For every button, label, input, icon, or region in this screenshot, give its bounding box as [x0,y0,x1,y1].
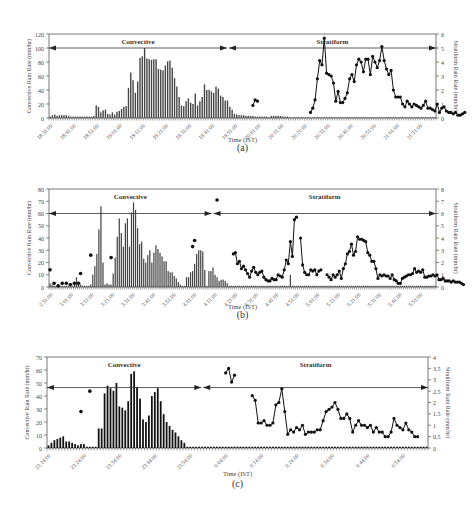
y-right-tick-label: 1.5 [433,411,441,417]
convective-bar [245,286,246,287]
y-right-tick-label: 0 [441,285,444,291]
y-right-axis-title: Stratiform Rain Rate (mm/hr) [452,202,459,273]
region-label-convective: Convective [121,38,154,46]
convective-bar [250,116,251,118]
convective-bar [54,115,55,119]
convective-bar [266,447,268,448]
convective-bar [235,286,236,287]
y-left-tick-label: 80 [38,60,44,66]
convective-bar [227,283,228,287]
convective-bar [411,447,413,448]
convective-bar [372,117,373,118]
convective-bar [399,447,401,448]
convective-bar [112,112,113,118]
convective-bar [53,286,54,287]
convective-bar [121,408,123,448]
stratiform-point [52,282,56,286]
convective-bar [349,286,350,287]
convective-bar [231,110,232,118]
convective-bar [190,272,191,287]
convective-bar [248,447,250,448]
convective-bar [398,286,399,287]
convective-bar [105,110,106,118]
convective-bar [370,117,371,118]
y-right-tick-label: 1 [433,423,436,429]
convective-bar [86,447,88,448]
stratiform-point [79,410,83,414]
convective-bar [52,115,53,118]
convective-bar [351,117,352,118]
x-tick-label: 3:21:00 [99,291,115,307]
convective-bar [56,439,58,448]
convective-bar [357,286,358,287]
convective-bar [77,117,78,118]
convective-bar [292,286,293,287]
x-tick-label: 0:24:00 [284,452,300,468]
x-tick-label: 3:31:00 [120,291,136,307]
convective-bar [396,447,398,448]
panel-label: (b) [237,309,249,321]
x-tick-label: 5:31:00 [366,291,382,307]
convective-bar [241,286,242,287]
convective-bar [240,447,242,448]
convective-bar [113,274,114,287]
convective-bar [361,286,362,287]
convective-bar [367,286,368,287]
convective-bar [334,447,336,448]
convective-bar [271,286,272,287]
convective-bar [316,447,318,448]
convective-bar [369,286,370,287]
convective-bar [71,443,73,448]
convective-bar [119,111,120,118]
convective-bar [180,285,181,287]
convective-bar [74,444,76,448]
convective-bar [162,70,163,118]
convective-bar [90,285,91,287]
convective-bar [296,117,297,118]
convective-bar [313,447,315,448]
convective-bar [183,443,185,448]
convective-bar [342,117,343,118]
convective-bar [243,115,244,118]
convective-bar [124,410,126,448]
convective-bar [310,117,311,118]
x-tick-label: 2:51:00 [38,291,54,307]
convective-bar [151,263,152,288]
convective-bar [341,286,342,287]
convective-bar [166,422,168,448]
stratiform-point [89,253,93,257]
convective-bar [320,286,321,287]
convective-bar [294,286,295,287]
y-left-axis-title: Convective Rain Rate (mm/hr) [24,365,31,439]
convective-bar [185,101,186,118]
y-right-axis-title: Stratiform Rain Rate (mm/hr) [452,40,459,111]
convective-bar [198,250,199,287]
convective-bar [213,93,214,118]
convective-bar [322,286,323,287]
convective-bar [89,117,90,118]
convective-bar [306,286,307,287]
convective-bar [91,117,92,118]
convective-bar [121,109,122,118]
convective-bar [72,286,73,287]
x-tick-label: 23:54:00 [175,452,193,470]
convective-bar [414,447,416,448]
convective-bar [192,271,193,287]
convective-bar [259,286,260,287]
convective-bar [169,426,171,448]
convective-bar [418,117,419,118]
convective-bar [393,117,394,118]
convective-bar [248,116,249,118]
y-right-tick-label: 5 [441,223,444,229]
convective-bar [310,447,312,448]
convective-bar [172,68,173,118]
convective-bar [266,117,267,118]
convective-bar [304,286,305,287]
x-tick-label: 19:31:00 [174,122,192,140]
convective-bar [130,73,131,119]
convective-bar [135,93,136,118]
convective-bar [123,107,124,118]
convective-bar [149,59,150,118]
convective-bar [104,393,106,448]
y-right-tick-label: 3 [441,248,444,254]
